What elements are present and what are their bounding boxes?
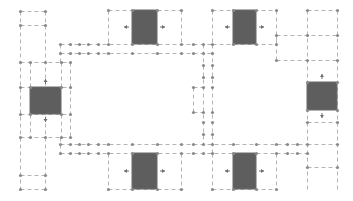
grid-node [306,81,309,84]
grid-node [232,188,235,191]
grid-node [131,188,134,191]
grid-node [202,76,205,79]
block-bottom-1 [132,153,157,189]
grid-node [202,43,205,46]
grid-node [211,143,214,146]
grid-node [202,152,205,155]
grid-node [97,43,100,46]
arrow-up-icon [44,79,48,84]
grid-node [19,10,22,13]
grid-node [306,9,309,12]
grid-node [19,136,22,139]
grid-node [211,64,214,67]
grid-node [107,152,110,155]
grid-node [131,152,134,155]
grid-node [211,188,214,191]
grid-node [60,86,63,89]
grid-node [97,52,100,55]
dashed-grid-lines [21,11,338,190]
arrow-left-icon [124,169,129,173]
grid-node [156,52,159,55]
grid-node [275,152,278,155]
grid-node [255,143,258,146]
block-left [30,87,61,114]
arrow-down-icon [44,117,48,122]
arrow-right-icon [160,25,165,29]
grid-node [202,52,205,55]
block-right [307,82,337,110]
arrow-left-icon [225,169,230,173]
grid-node [336,34,339,37]
grid-node [202,86,205,89]
arrow-left-icon [225,25,230,29]
grid-node [29,136,32,139]
grid-node [192,86,195,89]
arrow-down-icon [320,113,324,118]
grid-node [107,9,110,12]
grid-node [97,152,100,155]
grid-node [306,166,309,169]
grid-node [44,188,47,191]
grid-node [19,113,22,116]
grid-node [87,43,90,46]
grid-node [107,52,110,55]
grid-node [107,143,110,146]
grid-node [306,34,309,37]
grid-node [44,61,47,64]
grid-node [78,143,81,146]
grid-node [232,43,235,46]
grid-node [131,143,134,146]
grid-node [78,43,81,46]
grid-node [296,152,299,155]
grid-node [59,43,62,46]
grid-node [131,52,134,55]
grid-node [192,152,195,155]
grid-node [69,86,72,89]
grid-node [336,59,339,62]
grid-node [211,133,214,136]
grid-node [87,143,90,146]
grid-node [336,143,339,146]
grid-node [131,9,134,12]
grid-node [306,143,309,146]
grid-node [19,188,22,191]
grid-node [336,166,339,169]
grid-node [211,43,214,46]
grid-node [19,24,22,27]
floorplan-diagram [0,0,353,201]
grid-node [44,10,47,13]
block-top-2 [233,10,256,44]
grid-node [131,43,134,46]
grid-node [78,52,81,55]
diagram-svg [0,0,353,201]
grid-node [232,143,235,146]
grid-node [275,43,278,46]
arrow-right-icon [259,169,264,173]
grid-node [202,121,205,124]
arrow-up-icon [320,74,324,79]
grid-node [19,61,22,64]
arrow-right-icon [259,25,264,29]
grid-node [202,111,205,114]
solid-blocks [30,10,337,189]
grid-node [255,188,258,191]
grid-node [44,174,47,177]
grid-node [78,152,81,155]
arrow-left-icon [124,25,129,29]
block-top-1 [132,10,157,44]
grid-node [97,143,100,146]
grid-node [306,109,309,112]
grid-node [69,136,72,139]
grid-node [336,9,339,12]
grid-node [255,9,258,12]
grid-node [255,43,258,46]
grid-node [192,143,195,146]
grid-node [275,34,278,37]
grid-node [211,9,214,12]
grid-node [60,61,63,64]
grid-node [87,152,90,155]
grid-node [202,143,205,146]
grid-node [107,188,110,191]
grid-node [107,43,110,46]
grid-node [59,143,62,146]
